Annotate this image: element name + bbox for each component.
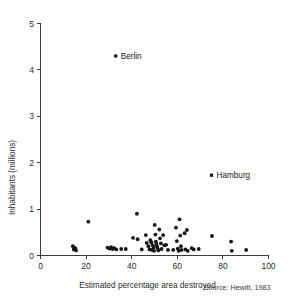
data-point <box>146 244 150 248</box>
y-tick-label: 4 <box>29 65 34 75</box>
data-point <box>154 233 158 237</box>
x-tick-label: 40 <box>127 261 137 271</box>
data-point <box>144 233 148 237</box>
x-tick-label: 20 <box>81 261 91 271</box>
data-point <box>74 248 78 252</box>
data-point <box>186 249 190 253</box>
data-point <box>161 233 165 237</box>
data-point <box>174 226 178 230</box>
data-point <box>230 249 234 253</box>
y-tick-label: 2 <box>29 158 34 168</box>
chart-ticks <box>37 24 269 260</box>
data-point <box>114 54 117 57</box>
x-axis-title: Estimated percentage area destroyed <box>79 281 216 290</box>
data-point <box>152 246 156 250</box>
chart-tick-labels: 012345020406080100 <box>29 19 276 272</box>
chart-point-annotations: BerlinHamburg <box>121 52 251 180</box>
data-point <box>157 228 161 232</box>
data-point <box>119 247 123 251</box>
data-point <box>175 239 179 243</box>
point-label-hamburg: Hamburg <box>217 171 251 180</box>
data-point <box>124 247 128 251</box>
data-point <box>159 242 163 246</box>
data-point <box>145 241 149 245</box>
data-point <box>210 234 214 238</box>
y-tick-label: 3 <box>29 111 34 121</box>
y-tick-label: 5 <box>29 19 34 29</box>
y-tick-label: 1 <box>29 204 34 214</box>
data-point <box>153 223 157 227</box>
data-point <box>183 231 187 235</box>
data-point <box>197 247 201 251</box>
data-point <box>135 212 139 216</box>
data-point <box>178 234 182 238</box>
chart-svg: 012345020406080100 BerlinHamburg Estimat… <box>0 0 291 304</box>
data-point <box>152 249 156 253</box>
data-point <box>166 248 170 252</box>
data-point <box>164 243 168 247</box>
data-point <box>136 237 140 241</box>
point-label-berlin: Berlin <box>121 52 142 61</box>
data-point <box>158 236 162 240</box>
x-tick-label: 60 <box>173 261 183 271</box>
data-point <box>180 248 184 252</box>
data-point <box>185 228 189 232</box>
data-point <box>86 220 90 224</box>
data-point <box>160 247 164 251</box>
data-point <box>210 174 213 177</box>
x-tick-label: 80 <box>218 261 228 271</box>
data-point <box>179 244 183 248</box>
axis-lines <box>41 24 269 256</box>
y-tick-label: 0 <box>29 251 34 261</box>
source-note: Source: Hewitt, 1983 <box>204 283 271 292</box>
data-point <box>131 236 135 240</box>
data-point <box>192 248 196 252</box>
x-tick-label: 100 <box>261 261 275 271</box>
chart-data-points <box>71 54 248 252</box>
chart-axes <box>41 24 269 256</box>
data-point <box>244 248 248 252</box>
data-point <box>114 248 118 252</box>
y-axis-title: Inhabitants (millions) <box>8 140 17 215</box>
data-point <box>229 240 233 244</box>
data-point <box>178 217 182 221</box>
x-tick-label: 0 <box>38 261 43 271</box>
scatter-chart-figure: 012345020406080100 BerlinHamburg Estimat… <box>0 0 291 304</box>
data-point <box>140 248 144 252</box>
data-point <box>171 248 175 252</box>
